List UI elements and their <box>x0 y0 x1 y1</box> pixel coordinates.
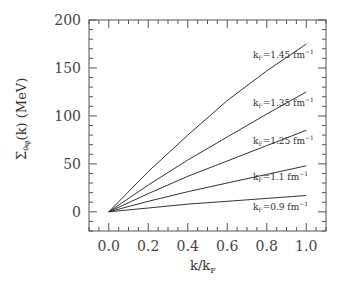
x-tick-label: 0.0 <box>98 238 120 254</box>
tick-labels: 0.00.20.40.60.81.0050100150200 <box>54 12 317 254</box>
x-tick-label: 0.4 <box>177 238 199 254</box>
x-tick-label: 1.0 <box>295 238 317 254</box>
curve-line <box>109 92 306 212</box>
y-tick-label: 200 <box>54 12 81 28</box>
data-curves <box>109 44 306 212</box>
y-tick-label: 100 <box>54 108 81 124</box>
x-tick-label: 0.6 <box>216 238 238 254</box>
curve-label: kF=1.35 fm−1 <box>253 96 314 109</box>
y-tick-label: 150 <box>54 60 81 76</box>
y-tick-label: 0 <box>72 204 81 220</box>
x-tick-label: 0.8 <box>256 238 278 254</box>
x-tick-label: 0.2 <box>137 238 159 254</box>
curve-label: kF=1.45 fm−1 <box>253 48 314 61</box>
chart: 0.00.20.40.60.81.0050100150200 kF=1.45 f… <box>0 0 343 287</box>
curve-line <box>109 44 306 212</box>
y-axis-title: Σθφ(k) (MeV) <box>14 78 31 160</box>
x-axis-title: k/kF <box>190 258 216 275</box>
curve-label: kF=1.1 fm−1 <box>253 170 308 183</box>
curve-label: kF=1.25 fm−1 <box>253 134 314 147</box>
y-tick-label: 50 <box>63 156 81 172</box>
curve-label: kF=0.9 fm−1 <box>253 200 308 213</box>
curve-labels: kF=1.45 fm−1kF=1.35 fm−1kF=1.25 fm−1kF=1… <box>253 48 314 213</box>
